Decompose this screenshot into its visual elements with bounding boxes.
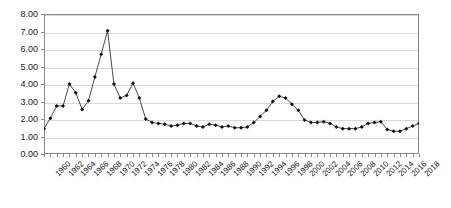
x-axis: 1960196219641966196819701972197419761978… <box>0 0 451 208</box>
line-chart: 0.001.002.003.004.005.006.007.008.00 196… <box>0 0 451 208</box>
